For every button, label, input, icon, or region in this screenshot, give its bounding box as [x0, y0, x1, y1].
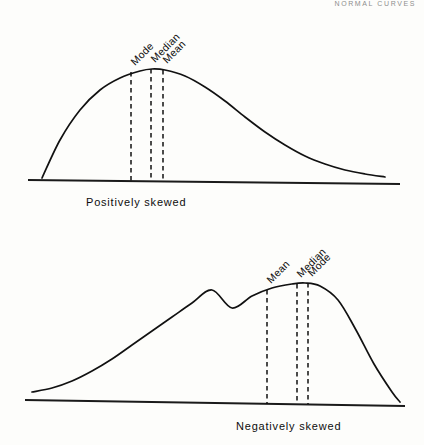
panel-negatively-skewed: MeanMedianMode Negatively skewed — [25, 245, 405, 432]
measure-lines-group — [131, 69, 163, 181]
panel-positively-skewed: ModeMedianMean Positively skewed — [28, 30, 400, 208]
running-head: NORMAL CURVES — [335, 0, 416, 7]
baseline-axis — [25, 400, 405, 406]
skewed-curves-figure: NORMAL CURVES ModeMedianMean Positively … — [0, 0, 424, 445]
distribution-curve — [42, 69, 385, 178]
measure-labels-group: ModeMedianMean — [128, 30, 188, 67]
measure-label-mean: Mean — [264, 258, 292, 286]
panel-caption: Positively skewed — [86, 196, 186, 208]
measure-labels-group: MeanMedianMode — [264, 245, 333, 285]
baseline-axis — [28, 180, 400, 184]
figure-root: NORMAL CURVES ModeMedianMean Positively … — [0, 0, 424, 445]
panel-caption: Negatively skewed — [236, 420, 341, 432]
distribution-curve — [32, 283, 400, 402]
measure-lines-group — [267, 283, 308, 404]
